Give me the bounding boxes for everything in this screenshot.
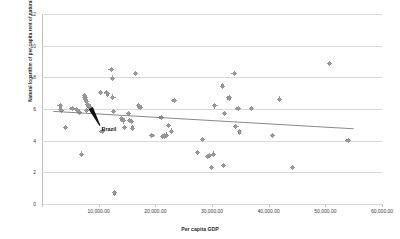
x-tick-mark: [99, 204, 100, 207]
x-tick-mark: [382, 204, 383, 207]
y-tick-label: 6: [0, 106, 36, 112]
x-tick-mark: [42, 204, 43, 207]
x-axis-title: Per capita GDP: [0, 226, 400, 232]
annotation-label-brazil: Brazil: [102, 126, 117, 132]
x-tick-label: 10,000.00: [88, 208, 110, 214]
y-tick-label: 12: [0, 11, 36, 17]
trend-line: [42, 14, 382, 204]
x-tick-mark: [155, 204, 156, 207]
y-tick-label: 8: [0, 74, 36, 80]
y-tick-label: 2: [0, 169, 36, 175]
x-tick-label: 20,000.00: [144, 208, 166, 214]
y-axis-title: Natural logarithm of per capita rent of …: [28, 0, 33, 124]
plot-area: 024681012 10,000.0020,000.0030,000.0040,…: [42, 14, 382, 204]
y-tick-label: 10: [0, 43, 36, 49]
x-tick-mark: [212, 204, 213, 207]
scatter-chart-figure: Natural logarithm of per capita rent of …: [0, 0, 400, 239]
x-tick-label: 40,000.00: [258, 208, 280, 214]
x-tick-mark: [325, 204, 326, 207]
y-tick-label: 4: [0, 138, 36, 144]
x-tick-label: 30,000.00: [201, 208, 223, 214]
x-tick-mark: [269, 204, 270, 207]
y-tick-label: 0: [0, 201, 36, 207]
x-tick-label: 50,000.00: [314, 208, 336, 214]
x-tick-label: 60,000.00: [371, 208, 393, 214]
